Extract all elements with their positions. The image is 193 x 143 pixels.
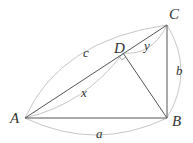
vertex-label-d: D [113, 40, 125, 56]
segment-label-b: b [176, 63, 183, 78]
segment-label-a: a [96, 126, 103, 141]
segment-label-x: x [80, 85, 87, 100]
vertex-label-b: B [172, 113, 181, 129]
vertex-label-c: C [169, 6, 180, 22]
altitude-bd [123, 53, 167, 118]
triangle-diagram: A B C D c x a b y [0, 0, 193, 143]
segment-label-y: y [142, 38, 150, 53]
vertex-label-a: A [9, 110, 20, 126]
segment-label-c: c [83, 45, 89, 60]
